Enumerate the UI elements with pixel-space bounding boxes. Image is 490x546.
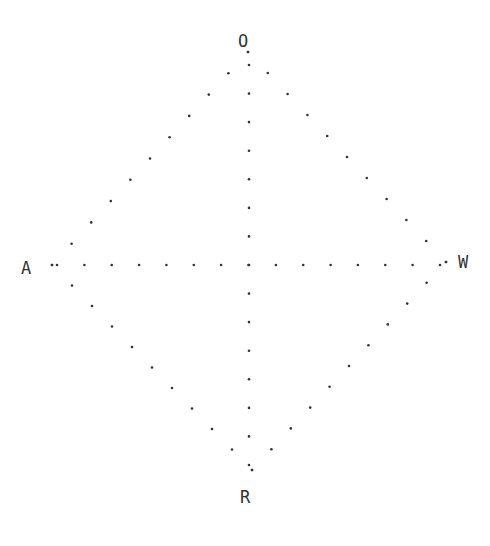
edge-dot-bottom-right <box>406 302 409 305</box>
horizontal-axis-dot <box>384 264 387 267</box>
horizontal-axis-dot <box>411 264 414 267</box>
horizontal-axis-dot <box>275 264 278 267</box>
edge-dot-top-right <box>306 114 309 117</box>
edge-dot-top-right <box>346 156 349 159</box>
vertical-axis-dot <box>248 121 251 124</box>
label-left: A <box>21 260 31 277</box>
edge-dot-top-left <box>188 115 191 118</box>
edge-dot-bottom-left <box>131 346 134 349</box>
vertical-axis-dot <box>248 235 251 238</box>
edge-dot-bottom-left <box>71 284 74 287</box>
vertical-axis-dot <box>248 64 251 67</box>
edge-dot-top-right <box>366 177 369 180</box>
horizontal-axis-dot <box>329 264 332 267</box>
edge-dot-bottom-right <box>270 448 273 451</box>
edge-dot-top-left <box>149 157 152 160</box>
label-bottom: R <box>240 489 250 506</box>
edge-dot-top-left <box>110 200 113 203</box>
horizontal-axis-dot <box>165 264 168 267</box>
vertical-axis-dot <box>248 378 251 381</box>
edge-dot-bottom-right <box>290 427 293 430</box>
vertical-axis-dot <box>248 407 251 410</box>
edge-dot-top-right <box>385 198 388 201</box>
vertical-axis-dot <box>248 349 251 352</box>
edge-dot-top-left <box>208 93 211 96</box>
edge-dot-top-left <box>90 221 93 224</box>
edge-dot-top-right <box>425 240 428 243</box>
edge-dot-top-left <box>70 242 73 245</box>
horizontal-axis-dot <box>193 264 196 267</box>
horizontal-axis-dot <box>220 264 223 267</box>
edge-dot-top-right <box>267 72 270 75</box>
vertical-axis-dot <box>248 149 251 152</box>
edge-dot-bottom-left <box>231 448 234 451</box>
horizontal-axis-dot <box>439 264 442 267</box>
edge-dot-bottom-right <box>387 323 390 326</box>
edge-dot-bottom-right <box>348 365 351 368</box>
edge-dot-top-right <box>405 219 408 222</box>
edge-dot-bottom-left <box>191 407 194 410</box>
horizontal-axis-dot <box>357 264 360 267</box>
vertical-axis-dot <box>248 292 251 295</box>
edge-dot-bottom-right <box>445 261 448 264</box>
edge-dot-bottom-right <box>425 282 428 285</box>
horizontal-axis-dot <box>138 264 141 267</box>
diagram-canvas: O A W R <box>0 0 490 546</box>
edge-dot-bottom-left <box>211 428 214 431</box>
edge-dot-bottom-right <box>328 386 331 389</box>
edge-dot-bottom-left <box>151 366 154 369</box>
vertical-axis-dot <box>248 92 251 95</box>
edge-dot-bottom-left <box>51 264 54 267</box>
vertical-axis-dot <box>248 207 251 210</box>
vertical-axis-dot <box>248 464 251 467</box>
edge-dot-bottom-right <box>251 469 254 472</box>
edge-dot-top-left <box>227 72 230 75</box>
dotted-diamond <box>0 0 490 546</box>
edge-dot-bottom-right <box>367 344 370 347</box>
horizontal-axis-dot <box>110 264 113 267</box>
edge-dot-top-right <box>247 51 250 54</box>
vertical-axis-dot <box>248 178 251 181</box>
horizontal-axis-dot <box>302 264 305 267</box>
horizontal-axis-dot <box>83 264 86 267</box>
horizontal-axis-dot <box>56 264 59 267</box>
edge-dot-bottom-left <box>111 325 114 328</box>
edge-dot-top-left <box>168 136 171 139</box>
edge-dot-bottom-left <box>171 387 174 390</box>
edge-dot-top-left <box>129 179 132 182</box>
vertical-axis-dot <box>248 435 251 438</box>
edge-dot-bottom-left <box>91 305 94 308</box>
vertical-axis-dot <box>248 321 251 324</box>
vertical-axis-dot <box>248 264 251 267</box>
label-right: W <box>458 254 468 271</box>
edge-dot-top-right <box>326 135 329 138</box>
edge-dot-top-right <box>286 93 289 96</box>
label-top: O <box>238 33 248 50</box>
edge-dot-bottom-right <box>309 406 312 409</box>
